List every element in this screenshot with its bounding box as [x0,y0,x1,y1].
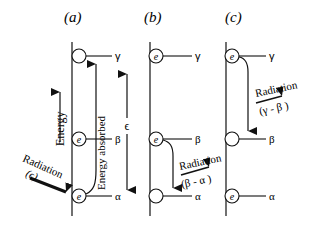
level-label: β [269,133,275,145]
electron-label: e [154,51,159,62]
panel-c: (c) e γ β e α Radiation (γ - β ) [225,9,299,216]
level-label: β [115,133,121,145]
level-label: γ [269,50,275,62]
panel-a-level-alpha: e α [72,189,121,203]
level-label: α [115,190,121,202]
energy-axis-label: Energy [53,112,67,146]
epsilon-label: ϵ [125,119,130,133]
empty-orbit-icon [225,132,239,146]
empty-orbit-icon [149,189,163,203]
panel-c-level-gamma: e γ [225,49,275,63]
empty-orbit-icon [72,49,86,63]
transition-arrow-icon [239,57,248,131]
electron-label: e [230,51,235,62]
electron-label: e [154,134,159,145]
energy-level-diagram: (a) γ e β e α Energy Energy absorbed [0,0,315,229]
panel-b-level-beta: e β [149,132,201,146]
radiation-label: Radiation [254,78,299,99]
panel-a: (a) γ e β e α Energy Energy absorbed [21,9,132,216]
panel-a-label: (a) [64,9,82,26]
level-label: α [269,190,275,202]
level-label: γ [195,50,201,62]
electron-label: e [230,191,235,202]
panel-b-label: (b) [144,9,162,26]
level-label: γ [115,50,121,62]
energy-absorbed-label: Energy absorbed [95,115,107,190]
panel-c-label: (c) [225,9,242,26]
panel-a-level-gamma: γ [72,49,121,63]
transition-arrow-icon [163,140,173,188]
panel-c-level-alpha: e α [225,189,275,203]
electron-label: e [77,134,82,145]
panel-b-level-alpha: α [149,189,201,203]
level-label: β [195,133,201,145]
panel-c-level-beta: β [225,132,275,146]
electron-label: e [77,191,82,202]
panel-b: (b) e γ e β α Radiation (β - α ) [144,9,223,216]
panel-b-level-gamma: e γ [149,49,201,63]
level-label: α [195,190,201,202]
